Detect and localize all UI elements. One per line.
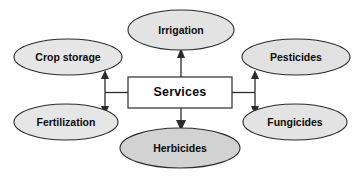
pesticides-label: Pesticides — [270, 51, 322, 63]
services-diagram: Crop storage Irrigation Pesticides Ferti… — [0, 0, 358, 181]
node-pesticides[interactable]: Pesticides — [242, 39, 350, 75]
arrowhead-up-pesticides — [251, 70, 259, 79]
diagram-canvas-svg: Crop storage Irrigation Pesticides Ferti… — [0, 0, 358, 181]
node-fertilization[interactable]: Fertilization — [14, 104, 118, 140]
connector-right-double-arrow — [232, 70, 259, 115]
crop-storage-label: Crop storage — [35, 51, 101, 63]
node-crop-storage[interactable]: Crop storage — [14, 39, 122, 75]
connector-left-double-arrow — [101, 70, 128, 115]
irrigation-label: Irrigation — [158, 24, 204, 36]
fertilization-label: Fertilization — [37, 116, 96, 128]
fungicides-label: Fungicides — [267, 116, 323, 128]
connector-up-irrigation — [177, 48, 185, 77]
node-herbicides[interactable]: Herbicides — [120, 128, 240, 168]
node-irrigation[interactable]: Irrigation — [128, 10, 234, 50]
herbicides-label: Herbicides — [153, 142, 207, 154]
services-label: Services — [153, 85, 206, 99]
node-services[interactable]: Services — [128, 77, 232, 108]
node-fungicides[interactable]: Fungicides — [243, 104, 347, 140]
